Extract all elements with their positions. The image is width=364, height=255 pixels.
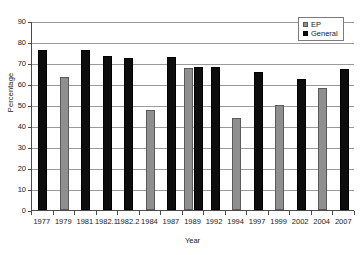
y-axis-tick-label: 10	[18, 186, 26, 194]
y-axis-tick-label: 50	[18, 102, 26, 110]
bar-general-1977	[38, 50, 47, 210]
x-axis-tick-label: 1999	[270, 218, 287, 226]
x-axis-tick-label: 2007	[335, 218, 352, 226]
x-axis-tick-label: 1992	[206, 218, 223, 226]
x-axis-tick	[74, 211, 75, 215]
bar-general-1981	[81, 50, 90, 210]
x-axis-tick	[225, 211, 226, 215]
chart-legend: EPGeneral	[298, 17, 344, 41]
x-axis-tick	[311, 211, 312, 215]
bar-general-1997	[254, 72, 263, 210]
y-axis-tick-label: 30	[18, 144, 26, 152]
y-axis-tick-label: 0	[22, 207, 26, 215]
x-axis-tick-label: 2004	[313, 218, 330, 226]
x-axis-tick-label: 1989	[184, 218, 201, 226]
y-axis-tick-label: 90	[18, 18, 26, 26]
x-axis-labels: 1977197919811982.11982.21984198719891992…	[31, 218, 354, 230]
bar-ep-1979	[60, 77, 69, 210]
x-axis-tick	[354, 211, 355, 215]
x-axis-tick-label: 1997	[249, 218, 266, 226]
x-axis-tick	[160, 211, 161, 215]
legend-label: General	[311, 30, 338, 38]
y-axis-tick-label: 20	[18, 165, 26, 173]
x-axis-tick-label: 1977	[33, 218, 50, 226]
bar-ep-1984	[146, 110, 155, 210]
x-axis-tick	[182, 211, 183, 215]
y-axis-tick-label: 80	[18, 39, 26, 47]
x-axis-tick-label: 1994	[227, 218, 244, 226]
bar-general-2002	[297, 79, 306, 210]
bar-general-1982.2	[124, 58, 133, 210]
legend-item-ep: EP	[303, 20, 338, 29]
x-axis-title: Year	[31, 236, 354, 245]
legend-swatch-icon	[303, 22, 308, 27]
bar-ep-1994	[232, 118, 241, 210]
x-axis-tick	[203, 211, 204, 215]
x-axis-tick	[268, 211, 269, 215]
x-axis-ticks	[31, 211, 354, 216]
legend-item-general: General	[303, 29, 338, 38]
bar-general-1992	[211, 67, 220, 210]
bar-general-1982.1	[103, 56, 112, 210]
x-axis-tick-label: 1982.2	[116, 218, 139, 226]
bar-general-2007	[340, 69, 349, 210]
x-axis-tick	[139, 211, 140, 215]
bar-chart: Percentage 9080706050403020100 197719791…	[0, 0, 364, 255]
x-axis-tick-label: 1982.1	[95, 218, 118, 226]
bar-ep-1989	[184, 68, 193, 210]
x-axis-tick-label: 1981	[76, 218, 93, 226]
x-axis-tick	[117, 211, 118, 215]
x-axis-tick	[96, 211, 97, 215]
bars-layer	[32, 22, 354, 210]
x-axis-tick-label: 1987	[163, 218, 180, 226]
x-axis-tick	[246, 211, 247, 215]
x-axis-tick	[332, 211, 333, 215]
x-axis-tick	[53, 211, 54, 215]
y-axis-title: Percentage	[6, 63, 15, 123]
x-axis-tick-label: 2002	[292, 218, 309, 226]
x-axis-tick-label: 1979	[55, 218, 72, 226]
plot-area: 9080706050403020100	[31, 22, 354, 211]
bar-ep-2004	[318, 88, 327, 210]
legend-swatch-icon	[303, 31, 308, 36]
y-axis-tick-label: 40	[18, 123, 26, 131]
bar-ep-1999	[275, 105, 284, 210]
x-axis-tick	[289, 211, 290, 215]
y-axis-tick-label: 60	[18, 81, 26, 89]
x-axis-tick	[31, 211, 32, 215]
bar-general-1987	[167, 57, 176, 210]
x-axis-tick-label: 1984	[141, 218, 158, 226]
y-axis-tick-label: 70	[18, 60, 26, 68]
legend-label: EP	[311, 21, 321, 29]
bar-general-1989	[194, 67, 203, 210]
